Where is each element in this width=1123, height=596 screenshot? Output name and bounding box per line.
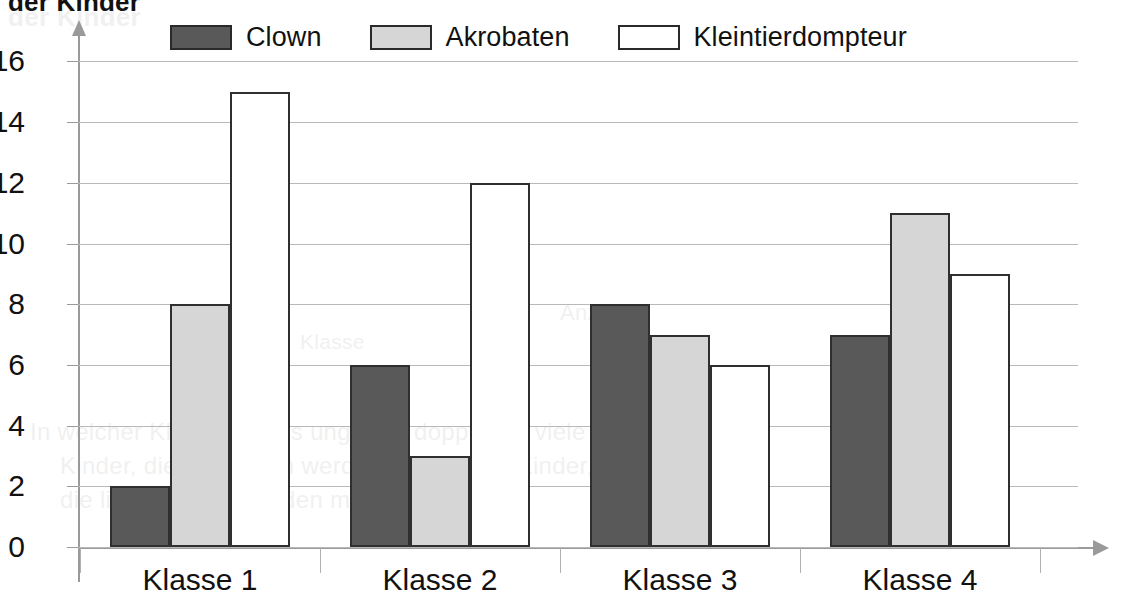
x-axis-tick (1040, 547, 1041, 573)
x-axis-category-label: Klasse 1 (142, 563, 257, 596)
x-axis-arrow-icon (1093, 540, 1109, 556)
x-axis-tick (560, 547, 561, 573)
y-axis-tick (67, 426, 78, 427)
bar-akrobaten-klasse-1 (170, 304, 230, 547)
y-axis-tick-label: 14 (0, 105, 25, 139)
bar-akrobaten-klasse-3 (650, 335, 710, 547)
y-axis-tick (67, 61, 78, 62)
y-axis-tick-label: 8 (8, 287, 25, 321)
y-axis-tick-label: 4 (8, 409, 25, 443)
y-axis-tick-label: 0 (8, 530, 25, 564)
gridline (78, 547, 1078, 548)
bar-clown-klasse-3 (590, 304, 650, 547)
bar-clown-klasse-1 (110, 486, 170, 547)
bar-kleintierdompteur-klasse-3 (710, 365, 770, 547)
y-axis-tick-label: 12 (0, 166, 25, 200)
y-axis-tick-label: 10 (0, 227, 25, 261)
x-axis-tick (320, 547, 321, 573)
bar-series-container (78, 22, 1078, 547)
y-axis-tick-label: 6 (8, 348, 25, 382)
page-title: der Kinder (8, 0, 140, 18)
chart-page: der KinderAnzahlIn welcher Klasse gibt e… (0, 0, 1123, 596)
bar-kleintierdompteur-klasse-1 (230, 92, 290, 547)
x-axis-tick (800, 547, 801, 573)
y-axis-tick-label: 2 (8, 469, 25, 503)
bar-clown-klasse-4 (830, 335, 890, 547)
y-axis-tick (67, 547, 78, 548)
y-axis-tick (67, 365, 78, 366)
x-axis-category-label: Klasse 2 (382, 563, 497, 596)
bar-akrobaten-klasse-2 (410, 456, 470, 547)
bar-clown-klasse-2 (350, 365, 410, 547)
y-axis-tick (67, 304, 78, 305)
y-axis-tick-label: 16 (0, 44, 25, 78)
y-axis-tick (67, 244, 78, 245)
x-axis-category-label: Klasse 3 (622, 563, 737, 596)
bar-kleintierdompteur-klasse-2 (470, 183, 530, 547)
y-axis-tick (67, 122, 78, 123)
bar-akrobaten-klasse-4 (890, 213, 950, 547)
bar-kleintierdompteur-klasse-4 (950, 274, 1010, 547)
y-axis-tick (67, 486, 78, 487)
x-axis-tick (80, 547, 81, 573)
y-axis-tick (67, 183, 78, 184)
plot-area: 0246810121416 Klasse 1Klasse 2Klasse 3Kl… (78, 22, 1123, 547)
x-axis-category-label: Klasse 4 (862, 563, 977, 596)
